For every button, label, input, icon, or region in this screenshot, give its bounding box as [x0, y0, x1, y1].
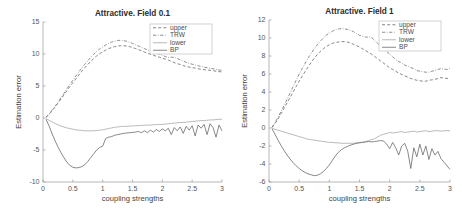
x-axis-label: coupling strengths: [102, 194, 164, 203]
y-tick-label: -4: [259, 160, 265, 167]
legend-label-TRW: TRW: [170, 31, 186, 38]
series-line-lower: [272, 128, 450, 143]
panel-left: Attractive. Field 0.1-10-505101500.511.5…: [0, 0, 231, 210]
y-axis-label: Estimation error: [240, 74, 249, 128]
y-tick-label: 12: [258, 16, 266, 23]
series-line-lower: [46, 119, 222, 131]
y-tick-label: 5: [36, 82, 40, 89]
legend-label-TRW: TRW: [399, 28, 415, 35]
chart-title: Attractive. Field 0.1: [95, 9, 171, 18]
panel-right: Attractive. Field 1-6-4-202468101200.511…: [231, 0, 462, 210]
x-tick-label: 0.5: [68, 185, 78, 192]
y-tick-label: 0: [262, 124, 266, 131]
y-tick-label: 10: [258, 34, 266, 41]
x-axis-label: coupling strengths: [329, 194, 391, 203]
x-tick-label: 0.5: [294, 185, 304, 192]
y-tick-label: 8: [262, 52, 266, 59]
chart-title: Attractive. Field 1: [325, 7, 394, 16]
y-tick-label: 4: [262, 88, 266, 95]
figure-container: Attractive. Field 0.1-10-505101500.511.5…: [0, 0, 462, 210]
y-axis-label: Estimation error: [14, 75, 23, 129]
y-tick-label: -5: [33, 146, 39, 153]
x-tick-label: 3: [220, 185, 224, 192]
y-tick-label: 15: [32, 18, 40, 25]
x-tick-label: 1: [101, 185, 105, 192]
y-tick-label: -2: [259, 142, 265, 149]
x-tick-label: 3: [448, 185, 452, 192]
x-tick-label: 2: [160, 185, 164, 192]
chart-right: Attractive. Field 1-6-4-202468101200.511…: [231, 0, 462, 210]
x-tick-label: 0: [267, 185, 271, 192]
y-tick-label: 0: [36, 114, 40, 121]
x-tick-label: 2.5: [415, 185, 425, 192]
chart-left: Attractive. Field 0.1-10-505101500.511.5…: [0, 0, 231, 210]
y-tick-label: 6: [262, 70, 266, 77]
y-tick-label: 2: [262, 106, 266, 113]
y-tick-label: -10: [29, 178, 39, 185]
x-tick-label: 2.5: [187, 185, 197, 192]
x-tick-label: 1.5: [128, 185, 138, 192]
series-line-upper: [272, 42, 450, 128]
legend-label-BP: BP: [399, 43, 408, 50]
y-tick-label: -6: [259, 178, 265, 185]
legend-label-BP: BP: [170, 46, 179, 53]
legend-label-lower: lower: [170, 39, 187, 46]
x-tick-label: 1.5: [355, 185, 365, 192]
series-line-BP: [272, 129, 450, 176]
y-tick-label: 10: [32, 50, 40, 57]
x-tick-label: 2: [388, 185, 392, 192]
x-tick-label: 1: [327, 185, 331, 192]
legend-label-lower: lower: [399, 36, 416, 43]
x-tick-label: 0: [41, 185, 45, 192]
series-line-BP: [46, 119, 222, 168]
